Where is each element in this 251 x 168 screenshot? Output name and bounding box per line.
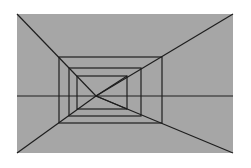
perspective-diagram <box>0 0 251 168</box>
gray-panel <box>17 14 233 153</box>
